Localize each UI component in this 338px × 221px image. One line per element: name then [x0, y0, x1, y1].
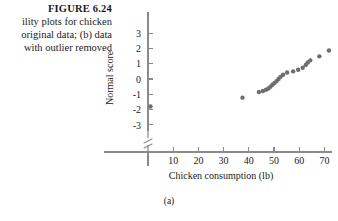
y-axis-tick-label: -3 — [133, 120, 141, 131]
data-point — [317, 54, 321, 58]
figure-page: FIGURE 6.24 ility plots for chicken orig… — [0, 0, 338, 221]
x-axis-tick-label: 20 — [193, 155, 203, 166]
y-axis-tick-label: -2 — [133, 104, 141, 115]
y-axis-title: Normal score — [104, 26, 118, 130]
data-point — [281, 73, 285, 77]
panel-label: (a) — [0, 196, 338, 206]
y-axis-tick-label: 0 — [136, 74, 141, 85]
x-axis-tick-label: 10 — [168, 155, 178, 166]
x-axis-title: Chicken consumption (lb) — [104, 170, 338, 181]
data-point — [240, 95, 244, 99]
data-point — [148, 104, 152, 108]
x-axis-tick-label: 70 — [319, 155, 329, 166]
y-axis-tick-label: 2 — [136, 43, 141, 54]
caption-line-1: ility plots for chicken — [0, 15, 112, 28]
data-point — [296, 68, 300, 72]
data-point — [327, 48, 331, 52]
caption-line-2: original data; (b) data — [0, 28, 112, 41]
chart-canvas: 10203040506070803210-1-2-3 — [104, 0, 338, 221]
data-point — [308, 58, 312, 62]
x-axis-tick-label: 40 — [244, 155, 254, 166]
data-point — [291, 69, 295, 73]
caption-line-3: with outlier removed — [0, 41, 112, 54]
x-axis-tick-label: 50 — [269, 155, 279, 166]
figure-number: FIGURE 6.24 — [0, 2, 112, 15]
y-axis-tick-label: 1 — [136, 58, 141, 69]
y-axis-tick-label: -1 — [133, 89, 141, 100]
x-axis-tick-label: 60 — [294, 155, 304, 166]
figure-caption: FIGURE 6.24 ility plots for chicken orig… — [0, 2, 112, 55]
data-point — [285, 70, 289, 74]
data-point — [257, 90, 261, 94]
scatter-plot: 10203040506070803210-1-2-3 — [104, 0, 338, 221]
y-axis-tick-label: 3 — [136, 28, 141, 39]
x-axis-tick-label: 30 — [219, 155, 229, 166]
